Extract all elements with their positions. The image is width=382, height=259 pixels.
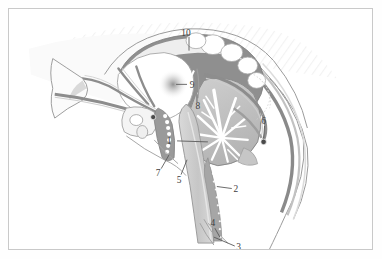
marker-left xyxy=(151,115,156,120)
label-3: 3 xyxy=(236,242,241,249)
label-6: 6 xyxy=(261,116,266,126)
label-4: 4 xyxy=(211,218,216,228)
label-7: 7 xyxy=(156,168,161,178)
marker-right xyxy=(261,139,267,145)
anatomical-figure: 1 2 3 4 5 6 7 8 9 10 xyxy=(9,9,372,249)
leader-2 xyxy=(217,187,232,189)
screenshot-root: 1 2 3 4 5 6 7 8 9 10 xyxy=(0,0,382,259)
label-10: 10 xyxy=(181,28,191,38)
figure-frame: 1 2 3 4 5 6 7 8 9 10 xyxy=(8,8,373,250)
label-9: 9 xyxy=(190,80,195,90)
label-5: 5 xyxy=(177,175,182,185)
sella-sphenoid-region xyxy=(122,107,157,139)
leader-3 xyxy=(214,237,235,246)
label-8: 8 xyxy=(196,101,201,111)
label-1: 1 xyxy=(167,136,172,146)
label-2: 2 xyxy=(233,184,238,194)
anatomy-svg: 1 2 3 4 5 6 7 8 9 10 xyxy=(9,9,372,249)
